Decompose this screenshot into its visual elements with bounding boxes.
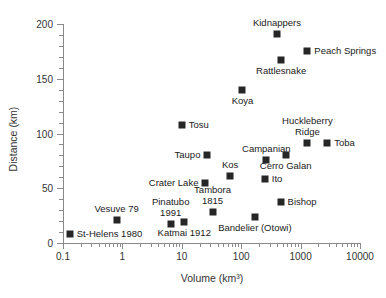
- x-tick-minor: [270, 244, 271, 247]
- x-tick-minor: [91, 244, 92, 247]
- y-axis-title: Distance (km): [7, 79, 19, 199]
- x-tick-label: 1000: [289, 251, 311, 262]
- x-tick-minor: [218, 244, 219, 247]
- data-point-label: Tambora 1815: [194, 185, 231, 206]
- data-point-label: Bishop: [288, 197, 317, 208]
- x-tick-minor: [291, 244, 292, 247]
- x-tick-minor: [287, 244, 288, 247]
- data-point-label: Kos: [222, 160, 238, 171]
- data-point-marker[interactable]: [178, 121, 185, 128]
- data-point-label: Tosu: [189, 119, 209, 130]
- x-tick-minor: [105, 244, 106, 247]
- x-tick-minor: [283, 244, 284, 247]
- x-tick-minor: [179, 244, 180, 247]
- data-point-label: Pinatubo 1991: [152, 197, 190, 218]
- x-tick-minor: [351, 244, 352, 247]
- x-tick-minor: [200, 244, 201, 247]
- data-point-marker[interactable]: [282, 152, 289, 159]
- data-point-label: Ito: [272, 174, 283, 185]
- x-tick-major: [360, 244, 361, 249]
- data-point-marker[interactable]: [273, 30, 280, 37]
- data-point-label: Koya: [232, 96, 254, 107]
- x-tick-label: 0.1: [56, 251, 70, 262]
- x-tick-minor: [357, 244, 358, 247]
- data-point-marker[interactable]: [261, 176, 268, 183]
- y-tick-label: 200: [0, 19, 53, 30]
- data-point-label: Peach Springs: [314, 46, 376, 57]
- x-tick-minor: [238, 244, 239, 247]
- x-tick-minor: [354, 244, 355, 247]
- data-point-marker[interactable]: [204, 152, 211, 159]
- data-point-marker[interactable]: [66, 231, 73, 238]
- x-tick-minor: [235, 244, 236, 247]
- data-point-label: Kidnappers: [253, 17, 301, 28]
- data-point-marker[interactable]: [324, 140, 331, 147]
- x-tick-label: 100: [233, 251, 250, 262]
- x-tick-label: 10: [176, 251, 187, 262]
- x-tick-label: 10000: [346, 251, 374, 262]
- scatter-chart: 050100150200 0.1110100100010000 Distance…: [0, 0, 386, 298]
- data-point-marker[interactable]: [209, 209, 216, 216]
- y-tick-label: 0: [0, 238, 53, 249]
- data-point-marker[interactable]: [304, 48, 311, 55]
- data-point-marker[interactable]: [113, 217, 120, 224]
- x-tick-minor: [120, 244, 121, 247]
- x-tick-minor: [164, 244, 165, 247]
- x-tick-minor: [109, 244, 110, 247]
- data-point-label: Toba: [334, 138, 355, 149]
- x-tick-minor: [259, 244, 260, 247]
- x-tick-minor: [228, 244, 229, 247]
- data-point-label: Katmai 1912: [158, 228, 211, 239]
- x-tick-major: [241, 244, 242, 249]
- x-tick-major: [182, 244, 183, 249]
- data-point-label: St-Helens 1980: [77, 229, 142, 240]
- x-tick-minor: [117, 244, 118, 247]
- x-tick-minor: [176, 244, 177, 247]
- data-point-label: Bandelier (Otowi): [218, 223, 291, 234]
- data-point-label: Crater Lake: [149, 178, 199, 189]
- data-point-label: Huckleberry Ridge: [282, 116, 333, 137]
- x-tick-minor: [298, 244, 299, 247]
- data-point-marker[interactable]: [239, 86, 246, 93]
- data-point-marker[interactable]: [278, 57, 285, 64]
- data-point-marker[interactable]: [251, 213, 258, 220]
- x-tick-minor: [81, 244, 82, 247]
- x-tick-minor: [173, 244, 174, 247]
- x-tick-minor: [210, 244, 211, 247]
- x-tick-minor: [140, 244, 141, 247]
- x-tick-minor: [347, 244, 348, 247]
- x-tick-minor: [336, 244, 337, 247]
- x-tick-major: [122, 244, 123, 249]
- data-point-label: Taupo: [175, 150, 201, 161]
- x-tick-minor: [99, 244, 100, 247]
- data-point-marker[interactable]: [227, 173, 234, 180]
- x-axis-title: Volume (km³): [63, 272, 361, 284]
- data-point-marker[interactable]: [304, 140, 311, 147]
- x-tick-minor: [232, 244, 233, 247]
- data-point-label: Rattlesnake: [256, 66, 306, 77]
- x-tick-minor: [151, 244, 152, 247]
- data-point-label: Vesuve 79: [94, 204, 138, 215]
- x-tick-minor: [295, 244, 296, 247]
- data-point-label: Cerro Galan: [260, 161, 312, 172]
- x-tick-minor: [158, 244, 159, 247]
- x-tick-minor: [342, 244, 343, 247]
- x-tick-minor: [277, 244, 278, 247]
- x-tick-major: [301, 244, 302, 249]
- x-tick-minor: [318, 244, 319, 247]
- x-tick-minor: [223, 244, 224, 247]
- x-tick-minor: [329, 244, 330, 247]
- x-tick-major: [63, 244, 64, 249]
- x-tick-minor: [169, 244, 170, 247]
- data-point-marker[interactable]: [277, 199, 284, 206]
- x-tick-label: 1: [120, 251, 126, 262]
- x-tick-minor: [113, 244, 114, 247]
- x-axis-line: [63, 243, 361, 244]
- data-point-marker[interactable]: [181, 219, 188, 226]
